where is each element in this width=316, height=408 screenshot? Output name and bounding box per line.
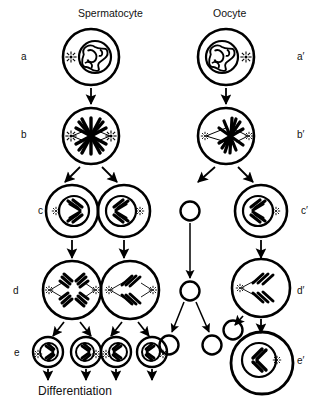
arrow-d-right-to-e3 [111,322,122,336]
spindle-chromosomes [76,118,106,154]
aster-icon [236,284,244,292]
chromosome-mass [253,349,266,371]
cell-spermatocyte-b [63,108,119,164]
polar-body-product-2 [203,336,222,355]
arrow-b-to-c-right [102,167,117,182]
aster-icon-left [45,286,53,294]
cell-spermatocyte-a [63,29,119,85]
cell-oocyte-d [232,259,290,317]
cell-spermatocyte-d-right [101,261,159,319]
aster-icon [102,350,110,358]
aster-icon [272,207,280,215]
cell-spermatid-2 [71,337,101,367]
chromosome-group-left [60,274,72,306]
chromosome-group [114,200,128,222]
chromosome-mass [82,344,90,360]
aster-icon [273,356,281,364]
spindle-chromosomes [219,118,243,153]
chromosome-group [251,200,265,222]
aster-icon-right [105,130,116,141]
aster-icon [136,207,144,215]
arrow-d-left-to-e2 [80,322,91,336]
arrow-b-prime-to-polar-body [198,167,215,182]
arrow-b-to-c-left [65,167,80,182]
aster-icon-left [65,130,76,141]
gametogenesis-figure: Spermatocyte Oocyte a b c d e a′ b′ c′ d… [0,0,316,408]
chromosome-mass [46,344,54,360]
aster-icon [65,51,76,62]
arrow-d-left-to-e1 [53,322,64,336]
arrow-polar-body-to-product-1 [172,302,184,332]
aster-icon [240,51,251,62]
aster-icon-left [105,286,113,294]
diagram-canvas [0,0,316,408]
chromosome-group-inner [253,274,273,302]
aster-icon-right [245,132,253,140]
chromosome-group-right [76,274,88,306]
aster-icon [92,350,100,358]
polar-body-second [224,321,243,340]
cell-spermatocyte-c-left [46,185,98,237]
cell-spermatid-1 [33,337,63,367]
cell-oocyte-b [198,108,254,164]
aster-icon [34,350,42,358]
polar-body-first [181,202,200,221]
chromosome-group-inner [122,276,140,304]
aster-icon [52,207,60,215]
arrow-b-prime-to-c-prime [238,167,253,182]
cell-spermatocyte-d-left [43,261,101,319]
arrow-polar-body-to-product-2 [196,302,209,332]
chromatin-threads [209,46,235,71]
cell-oocyte-c [235,185,287,237]
aster-icon-left [201,132,209,140]
chromosome-group [68,200,82,222]
cell-spermatid-3 [101,337,131,367]
aster-icon-right [149,286,157,294]
cell-spermatocyte-c-right [98,185,150,237]
spindle-lines [50,283,95,297]
aster-icon-right [92,286,100,294]
polar-body-product-1 [160,336,179,355]
arrow-d-right-to-e4 [138,322,149,336]
chromosome-mass [146,344,154,360]
cell-mature-ovum [231,332,293,394]
cell-oocyte-a [198,29,254,85]
polar-body-dividing [181,282,200,301]
chromatin-threads [82,46,108,71]
chromosome-mass [113,344,121,360]
